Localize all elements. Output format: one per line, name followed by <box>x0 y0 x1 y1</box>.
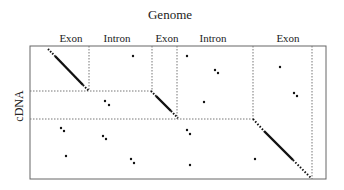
dot <box>203 101 205 103</box>
dot-plot-diagram: Genome Exon Intron Exon Intron Exon cDNA <box>0 0 344 190</box>
alignment-diagonal <box>156 96 171 111</box>
dot <box>189 164 191 166</box>
dot <box>186 55 188 57</box>
cdna-axis-label: cDNA <box>12 90 26 122</box>
alignment-diagonal <box>55 56 83 85</box>
dot <box>254 158 256 160</box>
alignment-diagonal <box>264 131 293 160</box>
dot <box>60 127 62 129</box>
segment-label-intron-1: Intron <box>104 32 131 44</box>
alignment-diagonal <box>48 49 55 56</box>
segment-labels: Exon Intron Exon Intron Exon <box>59 32 300 44</box>
dot <box>189 133 191 135</box>
genome-title: Genome <box>148 7 192 22</box>
dot <box>63 130 65 132</box>
dot <box>293 92 295 94</box>
alignment-diagonal <box>253 119 264 131</box>
plot-frame <box>30 46 326 179</box>
dot <box>65 155 67 157</box>
segment-label-exon-2: Exon <box>155 32 179 44</box>
diagonal-alignments <box>48 49 311 178</box>
dot <box>102 135 104 137</box>
dot <box>133 162 135 164</box>
alignment-diagonal <box>83 85 89 91</box>
genome-boundaries <box>89 46 312 179</box>
dot <box>214 69 216 71</box>
dot <box>105 138 107 140</box>
dot <box>186 129 188 131</box>
dot <box>217 72 219 74</box>
cdna-boundaries <box>30 91 253 119</box>
segment-label-intron-2: Intron <box>200 32 227 44</box>
dot <box>130 158 132 160</box>
segment-label-exon-1: Exon <box>59 32 83 44</box>
noise-dots <box>60 55 298 166</box>
dot <box>279 66 281 68</box>
segment-label-exon-3: Exon <box>276 32 300 44</box>
dot <box>108 104 110 106</box>
dot <box>296 95 298 97</box>
dot <box>104 100 106 102</box>
alignment-diagonal <box>293 160 311 178</box>
alignment-diagonal <box>151 91 156 96</box>
dot <box>132 55 134 57</box>
